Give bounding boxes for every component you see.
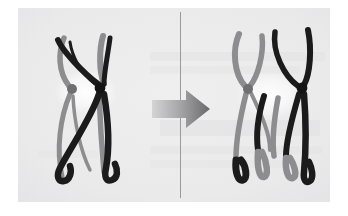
- centromere-maternal: [67, 84, 77, 94]
- centromere-paternal: [95, 83, 106, 94]
- centromere-recombinant-left: [243, 84, 253, 94]
- figure-canvas: [0, 0, 348, 216]
- centromere-recombinant-right: [297, 83, 308, 94]
- crossing-over-figure: Crossing over between homologous chromos…: [0, 0, 348, 216]
